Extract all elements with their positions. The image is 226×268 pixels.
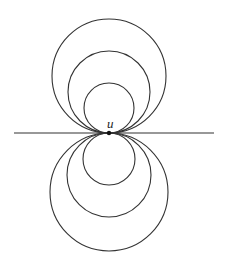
lower-circle-0 xyxy=(83,133,135,185)
lower-circle-2 xyxy=(50,133,168,251)
point-label: u xyxy=(107,116,114,131)
tangent-point xyxy=(107,131,111,135)
tangent-circles-diagram: u xyxy=(0,0,226,268)
lower-circle-1 xyxy=(67,133,151,217)
